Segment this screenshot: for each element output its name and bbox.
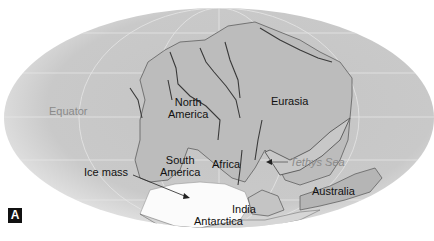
- panel-label-badge: A: [8, 208, 22, 223]
- africa-label: Africa: [212, 158, 240, 170]
- antarctica-label: Antarctica: [194, 215, 243, 227]
- south-america-label-line2: America: [160, 166, 200, 178]
- eurasia-label: Eurasia: [271, 95, 308, 107]
- south-america-label-line1: South: [160, 154, 200, 166]
- north-america-label-line2: America: [168, 108, 208, 120]
- north-america-label-line1: North: [168, 96, 208, 108]
- pangaea-map-figure: Equator North America Eurasia South Amer…: [0, 0, 434, 241]
- india-label: India: [232, 203, 256, 215]
- world-map: [0, 0, 434, 241]
- south-america-label: South America: [160, 154, 200, 178]
- north-america-label: North America: [168, 96, 208, 120]
- ice-mass-label: Ice mass: [84, 166, 128, 178]
- tethys-sea-label: Tethys Sea: [290, 156, 345, 168]
- equator-label: Equator: [49, 105, 88, 117]
- australia-label: Australia: [312, 185, 355, 197]
